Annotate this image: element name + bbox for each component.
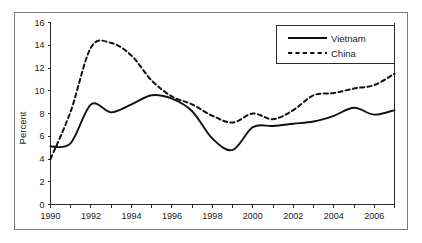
x-tick-label: 2000 (243, 211, 263, 221)
legend-label-vietnam: Vietnam (331, 33, 366, 44)
y-tick-label: 10 (34, 86, 44, 96)
legend-label-china: China (331, 48, 357, 59)
chart-legend: Vietnam China (277, 26, 395, 64)
line-chart: 0246810121416 19901992199419961998200020… (0, 0, 422, 243)
series-line-vietnam (51, 95, 395, 150)
x-axis-ticks: 199019921994199619982000200220042006 (40, 205, 394, 221)
y-axis-ticks: 0246810121416 (34, 18, 50, 210)
x-tick-label: 1996 (162, 211, 182, 221)
y-tick-label: 2 (39, 177, 44, 187)
y-tick-label: 0 (39, 200, 44, 210)
x-tick-label: 2002 (283, 211, 303, 221)
y-tick-label: 16 (34, 18, 44, 28)
x-tick-label: 1994 (121, 211, 141, 221)
y-axis-title: Percent (17, 111, 28, 144)
y-tick-label: 8 (39, 109, 44, 119)
x-tick-label: 1998 (202, 211, 222, 221)
x-tick-label: 2006 (364, 211, 384, 221)
x-tick-label: 1992 (81, 211, 101, 221)
x-tick-label: 1990 (40, 211, 60, 221)
chart-figure: 0246810121416 19901992199419961998200020… (0, 0, 422, 243)
y-tick-label: 4 (39, 154, 44, 164)
y-tick-label: 6 (39, 131, 44, 141)
y-tick-label: 14 (34, 40, 44, 50)
x-tick-label: 2004 (324, 211, 344, 221)
y-tick-label: 12 (34, 63, 44, 73)
